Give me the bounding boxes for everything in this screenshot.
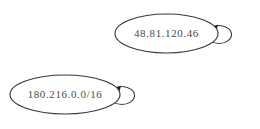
graph-diagram: 48.81.120.46 180.216.0.0/16: [0, 0, 260, 129]
graph-node-ip-prefix[interactable]: 180.216.0.0/16: [10, 75, 135, 114]
graph-node-ip-host[interactable]: 48.81.120.46: [115, 14, 232, 53]
graph-canvas: 48.81.120.46 180.216.0.0/16: [0, 0, 260, 129]
node-label-ip-prefix: 180.216.0.0/16: [28, 88, 103, 100]
node-label-ip-host: 48.81.120.46: [134, 27, 199, 39]
